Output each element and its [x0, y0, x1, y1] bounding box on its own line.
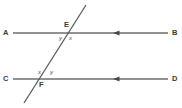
angle-label-e-left: y	[59, 35, 62, 41]
point-label-c: C	[3, 75, 8, 83]
angle-label-f-right: y	[50, 69, 53, 75]
angle-label-f-left: x	[38, 69, 41, 75]
point-label-f: F	[39, 81, 44, 89]
geometry-diagram: A B C D E F y x x y	[0, 0, 182, 108]
transversal-ef	[24, 5, 86, 103]
diagram-canvas	[0, 0, 182, 108]
point-label-b: B	[172, 29, 177, 37]
arrowhead-cd-icon	[113, 77, 120, 82]
point-label-e: E	[64, 21, 69, 29]
point-label-d: D	[172, 75, 177, 83]
arrowhead-ab-icon	[113, 31, 120, 36]
angle-label-e-right: x	[69, 35, 72, 41]
point-label-a: A	[3, 29, 8, 37]
